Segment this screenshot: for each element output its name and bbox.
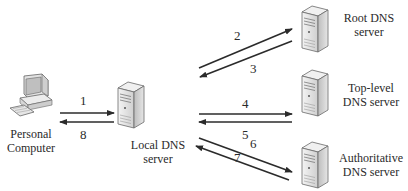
dns-resolution-diagram: 1 8 2 3 4 5 6 7 Personal Computer Local … xyxy=(0,0,408,191)
step-label-5: 5 xyxy=(242,128,249,141)
root-dns-server-label: Root DNS server xyxy=(336,11,402,39)
step-label-2: 2 xyxy=(234,29,241,42)
arrow-step-3 xyxy=(200,41,292,77)
authoritative-dns-server-icon xyxy=(302,142,328,188)
personal-computer-label: Personal Computer xyxy=(2,127,60,155)
arrow-step-7 xyxy=(196,146,289,180)
root-dns-server-icon xyxy=(302,6,328,52)
top-level-dns-server-icon xyxy=(302,70,328,116)
local-dns-server-icon xyxy=(118,82,144,128)
step-label-8: 8 xyxy=(80,128,87,141)
arrow-step-6 xyxy=(199,138,292,172)
personal-computer-icon xyxy=(10,74,52,116)
step-label-6: 6 xyxy=(250,137,257,150)
step-label-1: 1 xyxy=(80,94,87,107)
authoritative-dns-server-label: Authoritative DNS server xyxy=(336,151,406,179)
local-dns-server-label: Local DNS server xyxy=(126,138,190,166)
step-label-7: 7 xyxy=(234,151,241,164)
arrow-step-2 xyxy=(199,29,292,68)
top-level-dns-server-label: Top-level DNS server xyxy=(338,81,404,109)
step-label-4: 4 xyxy=(242,97,249,110)
step-label-3: 3 xyxy=(250,62,257,75)
